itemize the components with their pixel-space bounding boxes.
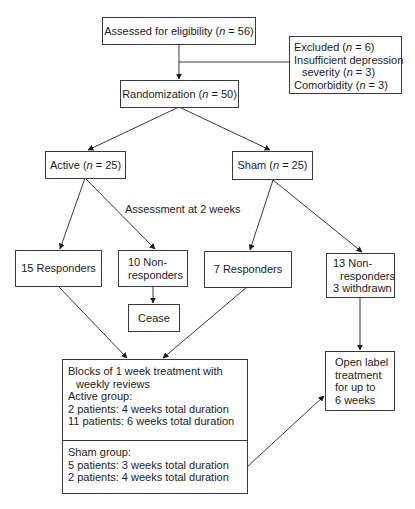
sham-group-detail-1: 5 patients: 3 weeks total duration: [68, 459, 247, 472]
sham-group-label: Sham (n = 25): [237, 159, 307, 172]
excluded-reason-depression: Insufficient depression: [294, 54, 401, 67]
sham-group-heading: Sham group:: [68, 446, 247, 459]
open-label-line2: treatment: [335, 369, 394, 382]
active-responders-label: 15 Responders: [21, 262, 96, 275]
sham-responders-label: 7 Responders: [214, 263, 283, 276]
sham-group-section: Sham group: 5 patients: 3 weeks total du…: [63, 440, 247, 484]
excluded-box: Excluded (n = 6) Insufficient depression…: [289, 36, 402, 94]
active-nonresponders-line1: 10 Non-: [128, 256, 187, 269]
active-group-label: Active (n = 25): [50, 159, 121, 172]
blocks-line1: Blocks of 1 week treatment with: [68, 365, 247, 378]
consort-flow-diagram: Assessed for eligibility (n = 56) Exclud…: [0, 0, 415, 509]
active-group-box: Active (n = 25): [45, 151, 126, 179]
randomization-box: Randomization (n = 50): [120, 80, 239, 108]
open-label-treatment-box: Open label treatment for up to 6 weeks: [325, 351, 395, 411]
open-label-line4: 6 weeks: [335, 394, 394, 407]
assessed-eligibility-box: Assessed for eligibility (n = 56): [102, 17, 256, 45]
open-label-line1: Open label: [335, 356, 394, 369]
assessment-timepoint-label: Assessment at 2 weeks: [125, 203, 241, 216]
open-label-line3: for up to: [335, 381, 394, 394]
sham-nonresponders-line3: 3 withdrawn: [333, 282, 394, 295]
active-group-detail-1: 2 patients: 4 weeks total duration: [68, 403, 247, 416]
sham-nonresponders-line2: responders: [333, 270, 394, 283]
active-group-section: Blocks of 1 week treatment with weekly r…: [63, 360, 247, 440]
active-group-heading: Active group:: [68, 390, 247, 403]
active-nonresponders-line2: responders: [128, 269, 187, 282]
sham-nonresponders-line1: 13 Non-: [333, 257, 394, 270]
sham-group-detail-2: 2 patients: 4 weeks total duration: [68, 471, 247, 484]
excluded-reason-comorbidity: Comorbidity (n = 3): [294, 79, 401, 92]
active-nonresponders-box: 10 Non- responders: [118, 250, 188, 287]
excluded-total: Excluded (n = 6): [294, 41, 401, 54]
assessed-label: Assessed for eligibility (n = 56): [104, 25, 254, 38]
blocks-line2: weekly reviews: [68, 378, 247, 391]
sham-nonresponders-box: 13 Non- responders 3 withdrawn: [326, 253, 395, 298]
excluded-reason-depression-count: severity (n = 3): [294, 66, 401, 79]
sham-group-box: Sham (n = 25): [232, 151, 313, 180]
cease-box: Cease: [128, 304, 180, 332]
active-group-detail-2: 11 patients: 6 weeks total duration: [68, 415, 247, 428]
cease-label: Cease: [138, 312, 170, 325]
randomization-label: Randomization (n = 50): [122, 88, 237, 101]
active-responders-box: 15 Responders: [15, 250, 102, 287]
sham-responders-box: 7 Responders: [204, 251, 292, 288]
treatment-blocks-box: Blocks of 1 week treatment with weekly r…: [62, 359, 248, 494]
